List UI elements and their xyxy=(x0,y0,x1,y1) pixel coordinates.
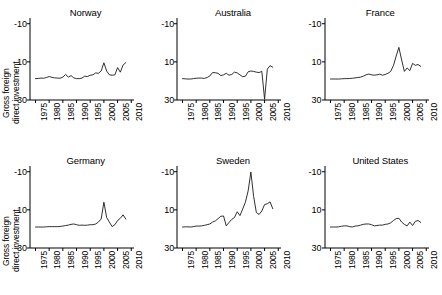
x-tick-label: 2000 xyxy=(254,251,264,269)
x-tick-label: 2000 xyxy=(107,251,117,269)
data-line-france xyxy=(330,47,420,79)
y-tick-label: 10 xyxy=(164,205,174,215)
x-tick-label: 1985 xyxy=(66,251,76,269)
x-tick-label: 1975 xyxy=(39,251,49,269)
data-line-australia xyxy=(183,66,273,100)
panel-title: Norway xyxy=(28,7,143,18)
panel-norway: Gross foreign direct investment Norway 3… xyxy=(0,0,147,147)
y-tick-labels: 3010-10 xyxy=(0,18,27,100)
y-tick-label: 10 xyxy=(312,57,322,67)
x-tick-labels: 19751980198519901995200020052010 xyxy=(30,103,134,145)
x-tick-label: 1995 xyxy=(241,251,251,269)
y-tick-label: -10 xyxy=(161,19,174,29)
panel-title: Australia xyxy=(175,7,290,18)
plot-area xyxy=(30,18,134,100)
x-tick-label: 2005 xyxy=(415,251,425,269)
x-tick-label: 1995 xyxy=(388,251,398,269)
panel-title: Germany xyxy=(28,155,143,166)
y-tick-labels: 3010-10 xyxy=(0,166,27,248)
plot-svg xyxy=(30,18,134,100)
y-tick-label: -10 xyxy=(161,167,174,177)
plot-area xyxy=(177,166,281,248)
y-tick-label: 10 xyxy=(312,205,322,215)
x-tick-label: 1990 xyxy=(374,251,384,269)
x-tick-labels: 19751980198519901995200020052010 xyxy=(177,103,281,145)
data-line-united-states xyxy=(330,218,420,227)
panel-germany: Gross foreign direct investment Germany … xyxy=(0,148,147,295)
x-tick-labels: 19751980198519901995200020052010 xyxy=(177,251,281,293)
x-tick-label: 2010 xyxy=(134,251,144,269)
x-tick-label: 2005 xyxy=(415,103,425,121)
x-tick-label: 2000 xyxy=(254,103,264,121)
data-line-sweden xyxy=(183,172,273,227)
x-tick-label: 1980 xyxy=(52,251,62,269)
plot-svg xyxy=(177,166,281,248)
x-tick-label: 1995 xyxy=(93,103,103,121)
x-tick-label: 1990 xyxy=(227,103,237,121)
panel-sweden: Sweden 3010-10 1975198019851990199520002… xyxy=(147,148,294,295)
y-tick-labels: 3010-10 xyxy=(295,166,322,248)
figure-small-multiples: Gross foreign direct investment Norway 3… xyxy=(0,0,442,295)
x-tick-labels: 19751980198519901995200020052010 xyxy=(325,103,429,145)
y-tick-label: -10 xyxy=(309,167,322,177)
plot-area xyxy=(30,166,134,248)
y-tick-label: -10 xyxy=(309,19,322,29)
x-tick-label: 2010 xyxy=(282,251,292,269)
y-tick-label: 30 xyxy=(312,95,322,105)
x-tick-label: 1975 xyxy=(333,251,343,269)
plot-svg xyxy=(325,18,429,100)
x-tick-label: 1975 xyxy=(333,103,343,121)
y-tick-label: 10 xyxy=(17,57,27,67)
panel-title: United States xyxy=(323,155,438,166)
y-tick-label: 30 xyxy=(164,95,174,105)
y-tick-label: -10 xyxy=(14,19,27,29)
y-tick-labels: 3010-10 xyxy=(147,166,174,248)
x-tick-label: 2005 xyxy=(268,103,278,121)
x-tick-label: 1985 xyxy=(213,251,223,269)
x-tick-label: 2000 xyxy=(107,103,117,121)
x-tick-label: 1985 xyxy=(361,103,371,121)
y-tick-label: 30 xyxy=(17,95,27,105)
x-tick-label: 2005 xyxy=(121,251,131,269)
x-tick-labels: 19751980198519901995200020052010 xyxy=(30,251,134,293)
x-tick-label: 2000 xyxy=(402,103,412,121)
panel-united-states: United States 3010-10 197519801985199019… xyxy=(295,148,442,295)
x-tick-label: 1990 xyxy=(374,103,384,121)
plot-area xyxy=(325,18,429,100)
x-tick-label: 2010 xyxy=(282,103,292,121)
x-tick-label: 1975 xyxy=(39,103,49,121)
plot-area xyxy=(325,166,429,248)
x-tick-label: 1980 xyxy=(200,103,210,121)
data-line-germany xyxy=(35,202,125,227)
data-line-norway xyxy=(35,63,125,79)
panel-title: France xyxy=(323,7,438,18)
plot-svg xyxy=(325,166,429,248)
panel-france: France 3010-10 1975198019851990199520002… xyxy=(295,0,442,147)
x-tick-label: 1980 xyxy=(52,103,62,121)
x-tick-label: 1995 xyxy=(388,103,398,121)
x-tick-label: 1975 xyxy=(186,251,196,269)
x-tick-label: 1985 xyxy=(361,251,371,269)
plot-area xyxy=(177,18,281,100)
y-tick-labels: 3010-10 xyxy=(295,18,322,100)
y-tick-label: 30 xyxy=(17,243,27,253)
x-tick-label: 1975 xyxy=(186,103,196,121)
x-tick-label: 1985 xyxy=(213,103,223,121)
x-tick-label: 1980 xyxy=(347,103,357,121)
x-tick-label: 1980 xyxy=(347,251,357,269)
x-tick-label: 1985 xyxy=(66,103,76,121)
plot-svg xyxy=(30,166,134,248)
x-tick-label: 2010 xyxy=(429,251,439,269)
x-tick-label: 2000 xyxy=(402,251,412,269)
x-tick-labels: 19751980198519901995200020052010 xyxy=(325,251,429,293)
x-tick-label: 1995 xyxy=(93,251,103,269)
x-tick-label: 1990 xyxy=(80,103,90,121)
y-tick-label: 10 xyxy=(17,205,27,215)
panel-row-bottom: Gross foreign direct investment Germany … xyxy=(0,148,442,295)
y-tick-labels: 3010-10 xyxy=(147,18,174,100)
y-tick-label: -10 xyxy=(14,167,27,177)
x-tick-label: 2010 xyxy=(429,103,439,121)
y-tick-label: 30 xyxy=(312,243,322,253)
x-tick-label: 1995 xyxy=(241,103,251,121)
panel-australia: Australia 3010-10 1975198019851990199520… xyxy=(147,0,294,147)
